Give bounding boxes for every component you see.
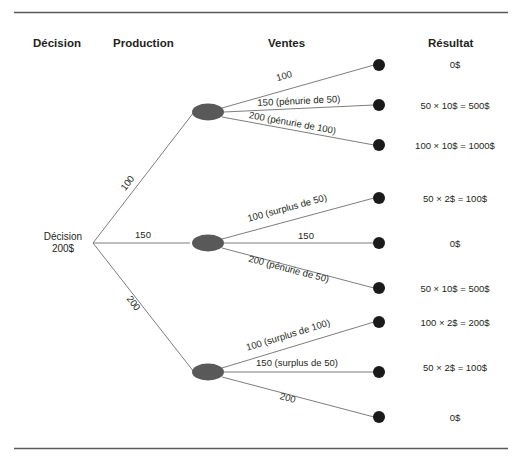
result-label-2-3: 50 × 10$ = 500$: [420, 283, 490, 294]
chance-node-production-150: [192, 235, 224, 252]
sales-branch-label-1-3: 200 (pénurie de 100): [248, 109, 337, 136]
column-header-production: Production: [113, 37, 174, 49]
sales-branch-label-3-1: 100 (surplus de 100): [245, 317, 332, 353]
terminal-node-1-1: [373, 59, 385, 71]
result-label-1-2: 50 × 10$ = 500$: [420, 100, 490, 111]
terminal-node-2-3: [373, 282, 385, 294]
chance-node-production-200: [192, 364, 224, 381]
sales-branch-label-1-1: 100: [275, 68, 293, 83]
sales-branch-label-2-1: 100 (surplus de 50): [246, 192, 328, 224]
root-decision-label-line2: 200$: [52, 243, 75, 254]
column-header-ventes: Ventes: [268, 37, 305, 49]
decision-tree-figure: Décision Production Ventes Résultat Déci…: [0, 0, 521, 462]
terminal-node-3-1: [373, 316, 385, 328]
terminal-node-2-1: [373, 192, 385, 204]
terminal-node-1-2: [373, 99, 385, 111]
result-label-3-3: 0$: [450, 412, 461, 423]
sales-branch-line-3-3: [222, 377, 374, 417]
result-label-1-3: 100 × 10$ = 1000$: [415, 140, 495, 151]
column-header-decision: Décision: [33, 37, 81, 49]
decision-branch-label-150: 150: [135, 229, 151, 240]
sales-branch-label-2-2: 150: [298, 230, 314, 241]
decision-branch-line-200: [93, 243, 194, 372]
sales-branch-label-1-2: 150 (pénurie de 50): [257, 93, 340, 108]
terminal-node-1-3: [373, 139, 385, 151]
result-label-2-2: 0$: [450, 238, 461, 249]
terminal-node-3-3: [373, 411, 385, 423]
result-label-3-1: 100 × 2$ = 200$: [420, 317, 490, 328]
column-header-resultat: Résultat: [428, 37, 474, 49]
decision-branch-label-200: 200: [125, 293, 143, 312]
result-label-3-2: 50 × 2$ = 100$: [423, 362, 488, 373]
result-label-1-1: 0$: [450, 59, 461, 70]
sales-branch-line-1-2: [224, 105, 374, 112]
chance-node-production-100: [192, 104, 224, 121]
terminal-node-2-2: [373, 237, 385, 249]
result-label-2-1: 50 × 2$ = 100$: [423, 193, 488, 204]
sales-branch-label-3-2: 150 (surplus de 50): [256, 357, 338, 368]
sales-branch-label-2-3: 200 (pénurie de 50): [247, 253, 330, 285]
root-decision-label-line1: Décision: [44, 231, 82, 242]
terminal-node-3-2: [373, 366, 385, 378]
sales-branch-label-3-3: 200: [279, 390, 297, 405]
decision-branch-line-100: [93, 112, 194, 243]
